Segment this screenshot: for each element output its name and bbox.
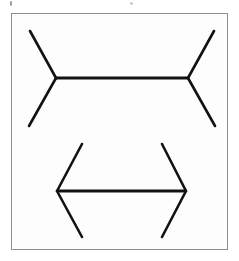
top-left-lower-fin [29,78,56,126]
top-figure-outward-fins [29,31,215,126]
top-right-lower-fin [188,78,215,126]
muller-lyer-illusion-figure [0,0,239,261]
top-left-upper-fin [30,31,56,78]
top-right-upper-fin [188,31,214,78]
bottom-left-lower-fin [57,191,82,237]
bottom-left-upper-fin [57,144,82,191]
bottom-right-upper-fin [162,144,186,191]
bottom-figure-inward-fins [57,144,186,237]
bottom-right-lower-fin [162,191,186,237]
scan-canvas: Müller-Lyer Illusion Figure [0,0,239,261]
